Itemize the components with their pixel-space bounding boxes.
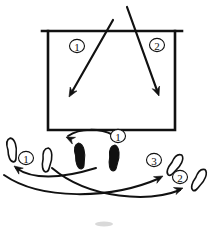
diagram-canvas: 121132 (0, 0, 218, 231)
footprint-step-1-outer-shape (6, 137, 18, 162)
step-label-1-left-text: 1 (23, 153, 29, 165)
shot-labels-group: 12 (70, 38, 165, 52)
court-label-1-text: 1 (74, 41, 80, 53)
court-label-1: 1 (70, 39, 85, 52)
bottom-smudge (95, 222, 113, 227)
step-label-3-right: 3 (147, 153, 162, 166)
step-label-2-right-text: 2 (177, 172, 183, 184)
movement-arrow-to-step-1-arrowhead (14, 166, 23, 174)
step-label-1-left: 1 (19, 151, 34, 164)
footprint-step-1-inner-shape (41, 148, 52, 173)
footprint-step-1-outer (6, 137, 18, 162)
footwork-diagram: 121132 (0, 0, 218, 231)
movement-arrow-to-step-3 (4, 175, 160, 194)
smudges-group (95, 222, 113, 227)
footprints-group (6, 137, 209, 192)
step-label-1-center-text: 1 (115, 131, 121, 143)
movement-arrow-to-step-2 (52, 168, 180, 197)
step-label-1-center: 1 (111, 129, 126, 142)
footprint-step-1-inner (41, 148, 52, 173)
footprint-step-2-shape (189, 167, 209, 192)
movement-arrow-center-left-arrowhead (66, 137, 75, 144)
footprint-ready-right-shape (108, 145, 120, 172)
footprint-ready-left (74, 143, 86, 170)
step-label-3-right-text: 3 (151, 155, 157, 167)
footprint-step-2 (189, 167, 209, 192)
court-label-2: 2 (150, 38, 165, 51)
court-label-2-text: 2 (154, 40, 160, 52)
shot-trajectories-group (69, 7, 160, 97)
footprint-ready-right (108, 145, 120, 172)
footprint-ready-left-shape (74, 143, 86, 170)
step-label-2-right: 2 (173, 170, 188, 183)
